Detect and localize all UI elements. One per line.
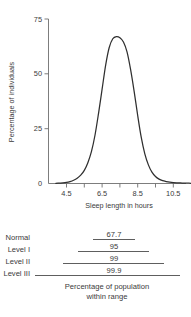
chart-panel: Percentage of individuals 75 50 25 0 4.5… bbox=[7, 15, 191, 210]
distribution-curve bbox=[56, 37, 191, 184]
x-tick-label-6-5: 6.5 bbox=[97, 189, 107, 198]
range-row-value-level-iii: 99.9 bbox=[107, 266, 122, 275]
y-tick-label-75: 75 bbox=[34, 15, 42, 24]
range-table-caption-line1: Percentage of population bbox=[65, 282, 149, 291]
range-row-value-level-ii: 99 bbox=[110, 254, 118, 263]
y-axis-title: Percentage of individuals bbox=[7, 61, 16, 142]
range-table-panel: Normal 67.7 Level I 95 Level II 99 Level… bbox=[3, 230, 180, 302]
table-row: Level II 99 bbox=[6, 254, 164, 267]
range-table-caption-line2: within range bbox=[86, 292, 128, 301]
x-tick-label-10-5: 10.5 bbox=[166, 189, 180, 198]
y-axis-ticks: 75 50 25 0 bbox=[34, 15, 49, 189]
y-tick-label-25: 25 bbox=[34, 124, 42, 133]
table-row: Level I 95 bbox=[8, 242, 149, 255]
table-row: Level III 99.9 bbox=[3, 266, 180, 279]
range-row-label-normal: Normal bbox=[6, 233, 31, 242]
x-axis-ticks: 4.5 6.5 8.5 10.5 bbox=[61, 184, 180, 199]
y-tick-label-50: 50 bbox=[34, 69, 42, 78]
range-row-label-level-ii: Level II bbox=[6, 257, 30, 266]
range-row-label-level-iii: Level III bbox=[3, 269, 30, 278]
range-row-label-level-i: Level I bbox=[8, 245, 30, 254]
x-axis-title: Sleep length in hours bbox=[85, 201, 153, 210]
range-row-value-normal: 67.7 bbox=[107, 230, 122, 239]
range-row-value-level-i: 95 bbox=[110, 242, 118, 251]
x-tick-label-4-5: 4.5 bbox=[61, 189, 71, 198]
x-tick-label-8-5: 8.5 bbox=[133, 189, 143, 198]
table-row: Normal 67.7 bbox=[6, 230, 135, 243]
y-tick-label-0: 0 bbox=[38, 179, 42, 188]
sleep-length-figure: Percentage of individuals 75 50 25 0 4.5… bbox=[0, 0, 191, 317]
